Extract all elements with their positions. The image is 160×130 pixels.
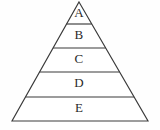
pyramid-level-label-b: B	[75, 27, 84, 42]
pyramid-svg-canvas: A B C D E	[0, 0, 160, 130]
pyramid-level-label-e: E	[75, 100, 83, 115]
pyramid-diagram: A B C D E	[0, 0, 160, 130]
pyramid-level-label-d: D	[74, 75, 84, 90]
pyramid-level-label-a: A	[74, 5, 84, 20]
pyramid-level-label-c: C	[75, 51, 84, 66]
